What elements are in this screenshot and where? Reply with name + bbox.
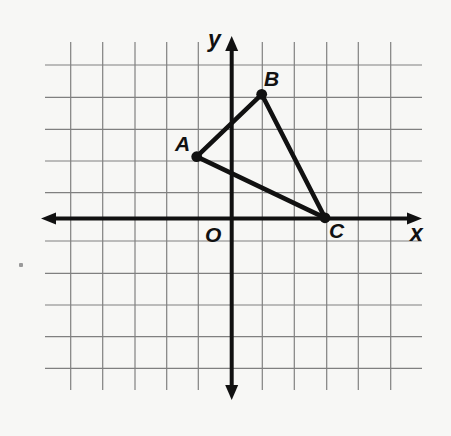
coordinate-plane-figure: y x O A B C xyxy=(0,0,451,436)
scan-speck-artifact xyxy=(19,263,23,267)
vertex-dot-a xyxy=(191,151,202,162)
origin-label: O xyxy=(205,224,221,245)
vertex-label-b: B xyxy=(264,68,279,89)
y-axis-arrow-down xyxy=(225,385,238,400)
x-axis-label: x xyxy=(410,222,423,245)
triangle-outline xyxy=(197,94,325,218)
vertex-dot-b xyxy=(256,89,267,100)
coordinate-plane-canvas xyxy=(0,0,451,436)
y-axis-arrow-up xyxy=(225,36,238,51)
x-axis-arrow-left xyxy=(41,213,56,225)
vertex-label-c: C xyxy=(329,220,344,241)
triangle-abc xyxy=(191,89,330,223)
y-axis-label: y xyxy=(208,28,221,51)
vertex-label-a: A xyxy=(175,133,190,154)
